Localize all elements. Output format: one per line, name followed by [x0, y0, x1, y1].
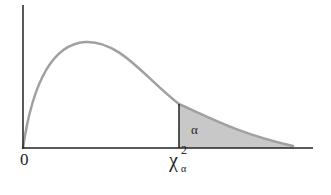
chi-square-diagram: 0 χ 2 α α	[0, 0, 331, 195]
density-curve	[23, 42, 293, 148]
origin-label: 0	[20, 150, 29, 170]
area-alpha-label: α	[191, 122, 198, 138]
chi-subscript: α	[181, 163, 186, 174]
chi-superscript: 2	[181, 143, 187, 158]
chi-symbol: χ	[169, 149, 178, 171]
critical-value-label: χ 2 α	[169, 149, 178, 172]
